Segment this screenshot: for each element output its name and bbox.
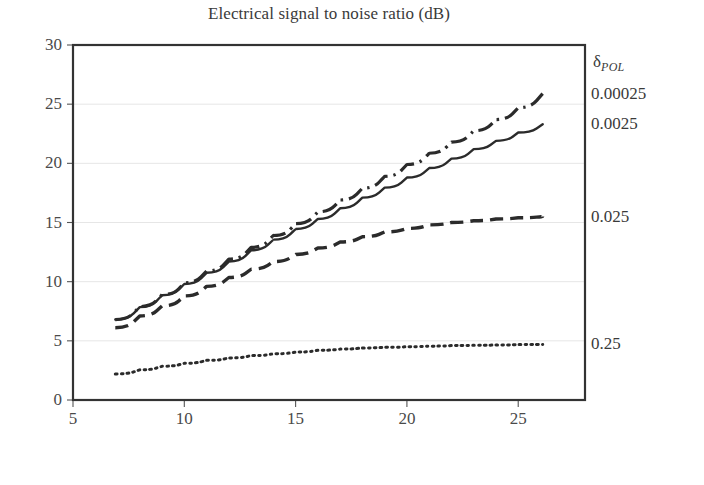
series-label-0.00025: 0.00025 (591, 85, 646, 102)
y-tick-label: 10 (28, 273, 62, 290)
series-line-0.025 (115, 217, 542, 328)
x-tick-label: 10 (160, 410, 208, 427)
series-label-0.0025: 0.0025 (591, 115, 638, 132)
series-line-0.25 (115, 344, 542, 374)
x-tick-label: 15 (272, 410, 320, 427)
y-tick-label: 15 (28, 214, 62, 231)
series-line-0.00025 (115, 94, 542, 320)
y-tick-label: 30 (28, 36, 62, 53)
chart-figure: Electrical signal to noise ratio (dB) 05… (0, 0, 704, 485)
delta-subscript: POL (601, 60, 625, 74)
x-tick-label: 25 (494, 410, 542, 427)
chart-title: Electrical signal to noise ratio (dB) (73, 4, 585, 24)
series-label-0.25: 0.25 (591, 335, 621, 352)
legend-title: δPOL (593, 53, 625, 73)
y-tick-label: 0 (28, 391, 62, 408)
y-tick-label: 25 (28, 95, 62, 112)
delta-symbol: δ (593, 52, 601, 71)
y-tick-label: 5 (28, 332, 62, 349)
x-tick-label: 20 (383, 410, 431, 427)
x-tick-label: 5 (49, 410, 97, 427)
y-tick-label: 20 (28, 154, 62, 171)
series-label-0.025: 0.025 (591, 208, 629, 225)
series-lines (115, 94, 542, 374)
